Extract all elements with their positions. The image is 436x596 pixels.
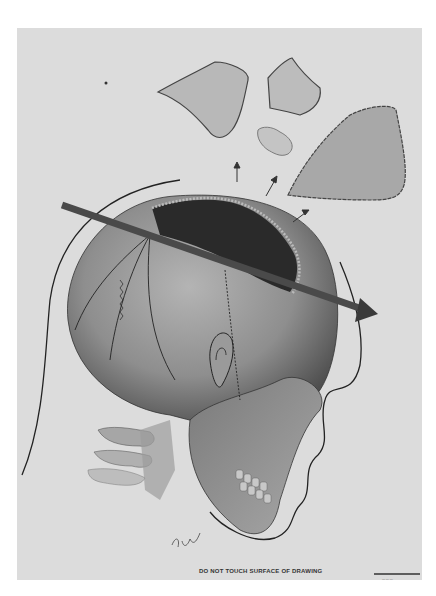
bone-fragment-2: [268, 58, 320, 115]
bone-fragment-3: [258, 127, 293, 155]
caption-text: DO NOT TOUCH SURFACE OF DRAWING: [199, 568, 322, 574]
bone-fragment-1: [158, 62, 248, 138]
bone-fragment-4: [288, 106, 405, 200]
scale-note: — — —: [382, 577, 393, 581]
medical-illustration: [0, 0, 436, 596]
signature: [172, 533, 200, 547]
cervical-vertebrae: [88, 420, 175, 500]
